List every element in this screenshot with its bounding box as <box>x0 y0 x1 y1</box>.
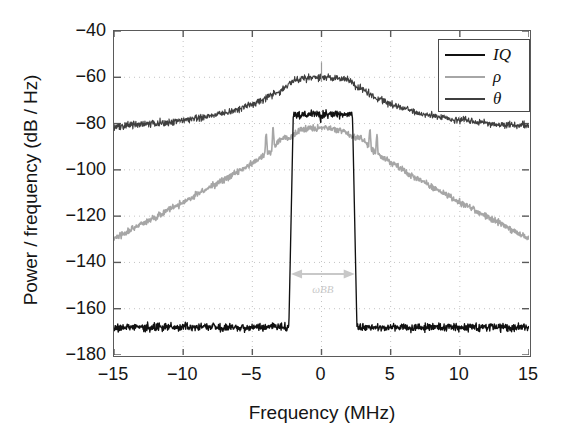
y-axis-label: Power / frequency (dB / Hz) <box>14 10 48 370</box>
legend-item-rho: ρ <box>439 66 529 88</box>
x-axis-label: Frequency (MHz) <box>113 402 531 424</box>
x-tick-label: 5 <box>385 364 395 385</box>
y-tick-label: −60 <box>46 66 106 87</box>
legend-item-theta: θ <box>439 88 529 110</box>
x-tick-label: 15 <box>518 364 538 385</box>
y-tick-label: −160 <box>46 297 106 318</box>
x-tick-label: −5 <box>241 364 262 385</box>
legend: IQ ρ θ <box>438 39 530 112</box>
y-tick-label: −80 <box>46 112 106 133</box>
y-tick-label: −100 <box>46 158 106 179</box>
bandwidth-annotation-label: ωBB <box>312 283 333 295</box>
legend-swatch-iq <box>445 54 485 56</box>
bandwidth-double-arrow <box>291 270 355 279</box>
y-tick-label: −40 <box>46 20 106 41</box>
legend-label-theta: θ <box>493 89 501 109</box>
x-tick-label: 10 <box>449 364 469 385</box>
y-tick-label: −120 <box>46 205 106 226</box>
x-tick-label: −15 <box>98 364 129 385</box>
legend-swatch-rho <box>445 76 485 78</box>
legend-label-rho: ρ <box>493 67 501 87</box>
x-tick-label: 0 <box>315 364 325 385</box>
spectrum-plot-figure: Power / frequency (dB / Hz) −40−60−80−10… <box>0 0 569 446</box>
x-axis-tick-labels: −15−10−5051015 <box>0 364 569 390</box>
legend-label-iq: IQ <box>493 45 511 65</box>
y-tick-label: −180 <box>46 344 106 365</box>
legend-item-iq: IQ <box>439 44 529 66</box>
y-tick-label: −140 <box>46 251 106 272</box>
x-tick-label: −10 <box>167 364 198 385</box>
legend-swatch-theta <box>445 98 485 100</box>
plot-area: IQ ρ θ ωBB <box>113 30 531 357</box>
